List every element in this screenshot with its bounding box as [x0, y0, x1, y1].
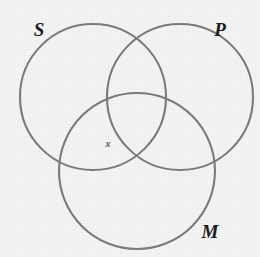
circle-set-s: [20, 24, 166, 170]
circle-set-m: [59, 93, 215, 249]
member-marker-x: x: [105, 137, 111, 149]
venn-diagram-canvas: S P M x: [0, 0, 260, 257]
set-label-m: M: [201, 221, 220, 242]
circle-set-p: [107, 24, 253, 170]
venn-diagram-figure: S P M x: [0, 0, 260, 257]
set-label-p: P: [213, 19, 226, 40]
set-label-s: S: [34, 19, 45, 40]
